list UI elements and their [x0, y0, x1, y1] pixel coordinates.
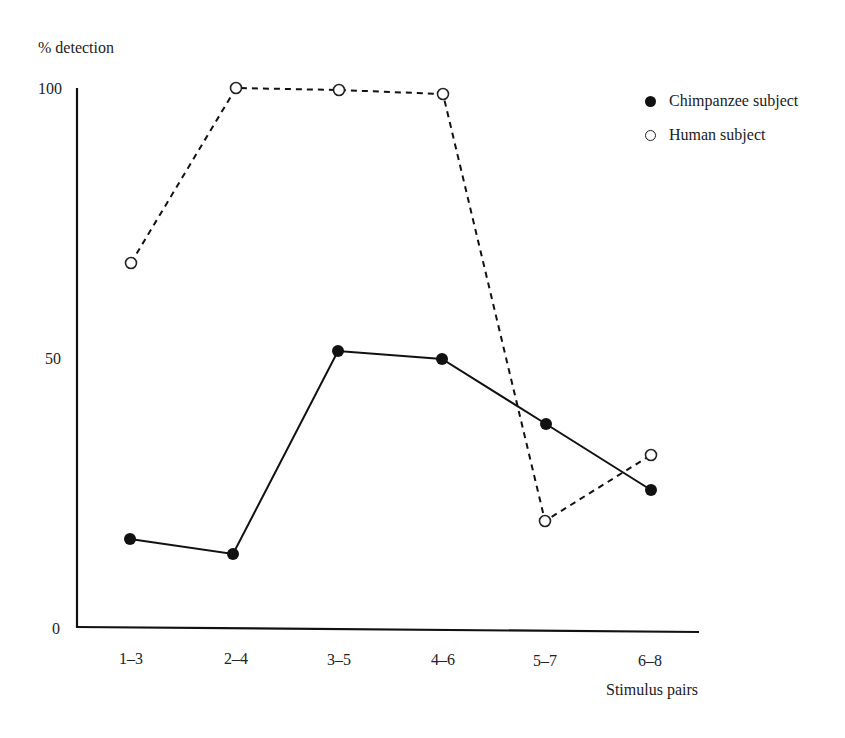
chimpanzee-point — [540, 418, 552, 430]
chimpanzee-point — [227, 548, 239, 560]
human-point — [438, 89, 449, 100]
y-tick-100: 100 — [38, 80, 62, 97]
chimpanzee-point — [645, 484, 657, 496]
x-tick-6-8: 6–8 — [638, 652, 662, 669]
x-tick-5-7: 5–7 — [533, 652, 557, 669]
y-tick-0: 0 — [52, 620, 60, 637]
y-tick-50: 50 — [45, 350, 61, 367]
human-point — [126, 258, 137, 269]
legend-label: Human subject — [669, 126, 765, 144]
human-line — [131, 88, 651, 521]
x-axis — [76, 627, 699, 632]
series-chimpanzee — [124, 345, 657, 560]
x-tick-2-4: 2–4 — [224, 650, 248, 667]
y-axis-label: % detection — [38, 39, 114, 56]
legend: Chimpanzee subject Human subject — [645, 84, 798, 152]
x-axis-label: Stimulus pairs — [606, 681, 698, 699]
chimpanzee-point — [332, 345, 344, 357]
human-point — [646, 450, 657, 461]
x-tick-1-3: 1–3 — [119, 650, 143, 667]
open-circle-icon — [645, 130, 656, 141]
x-tick-3-5: 3–5 — [327, 651, 351, 668]
legend-item-chimpanzee: Chimpanzee subject — [645, 84, 798, 118]
chimpanzee-line — [130, 351, 651, 554]
chimpanzee-point — [124, 533, 136, 545]
legend-label: Chimpanzee subject — [669, 92, 798, 110]
human-point — [540, 516, 551, 527]
human-point — [334, 85, 345, 96]
series-human — [126, 83, 657, 527]
chimpanzee-point — [436, 353, 448, 365]
filled-circle-icon — [645, 96, 656, 107]
x-tick-labels: 1–3 2–4 3–5 4–6 5–7 6–8 — [119, 650, 662, 669]
human-point — [231, 83, 242, 94]
legend-item-human: Human subject — [645, 118, 798, 152]
x-tick-4-6: 4–6 — [431, 651, 455, 668]
